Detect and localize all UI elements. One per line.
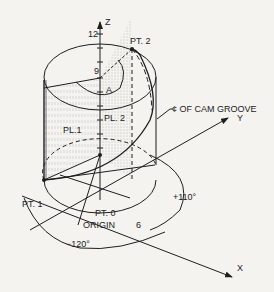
z-tick-12: 12 bbox=[88, 30, 98, 39]
pt2-dot bbox=[130, 47, 134, 51]
plane-2-fill bbox=[100, 17, 132, 180]
angle-a-label: A bbox=[106, 86, 112, 95]
plane-1-label: PL.1 bbox=[63, 126, 82, 135]
angle-pos-label: +110° bbox=[173, 193, 196, 202]
cam-diagram: Z 12 9 PT. 2 A PL. 2 PL.1 ¢ OF CAM GROOV… bbox=[0, 0, 274, 292]
angle-neg-label: −120° bbox=[66, 240, 90, 249]
x-axis bbox=[22, 196, 232, 277]
origin-label: ORIGIN bbox=[83, 221, 115, 230]
z-tick-9: 9 bbox=[94, 67, 99, 76]
pt1-label: PT. 1 bbox=[22, 200, 43, 209]
pt1-dot bbox=[42, 178, 46, 182]
z-axis-label: Z bbox=[105, 18, 111, 27]
pt0-dot bbox=[98, 153, 102, 157]
cam-groove-label: ¢ OF CAM GROOVE bbox=[172, 105, 257, 114]
x-tick-6: 6 bbox=[136, 221, 141, 230]
x-axis-label: X bbox=[237, 264, 243, 273]
pt0-label: PT. 0 bbox=[95, 209, 116, 218]
pt2-label: PT. 2 bbox=[130, 37, 151, 46]
y-axis-label: Y bbox=[237, 114, 243, 123]
plane-2-label: PL. 2 bbox=[104, 114, 125, 123]
